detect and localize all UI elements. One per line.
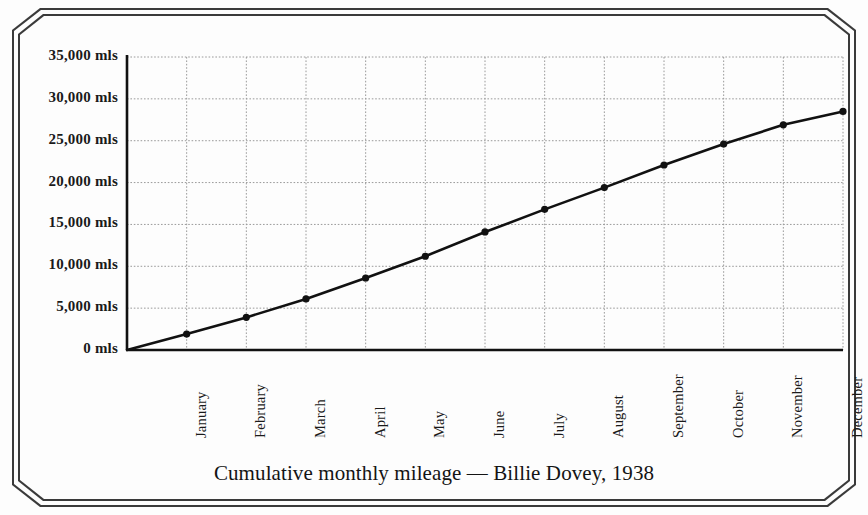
y-axis-tick-label: 35,000 mls: [49, 47, 119, 64]
grid-lines: [127, 57, 843, 350]
x-axis-tick-label: August: [610, 395, 627, 438]
y-axis-tick-label: 15,000 mls: [49, 214, 119, 231]
y-axis-tick-label: 0 mls: [83, 340, 118, 357]
x-axis-tick-label: May: [431, 411, 448, 438]
y-axis-tick-label: 20,000 mls: [49, 173, 119, 190]
x-axis-tick-label: June: [491, 411, 508, 438]
y-axis-tick-label: 5,000 mls: [56, 298, 118, 315]
x-axis-tick-label: November: [789, 375, 806, 438]
x-axis-tick-label: April: [372, 406, 389, 438]
x-axis-tick-label: March: [312, 399, 329, 438]
x-axis-tick-label: December: [849, 377, 866, 438]
x-axis-tick-label: January: [193, 392, 210, 439]
x-axis-tick-label: October: [730, 390, 747, 438]
line-chart: 0 mls5,000 mls10,000 mls15,000 mls20,000…: [0, 0, 868, 515]
x-axis-tick-label: September: [670, 374, 687, 438]
y-axis-tick-labels: 0 mls5,000 mls10,000 mls15,000 mls20,000…: [0, 0, 118, 515]
chart-caption: Cumulative monthly mileage — Billie Dove…: [0, 461, 868, 486]
chart-page: 0 mls5,000 mls10,000 mls15,000 mls20,000…: [0, 0, 868, 515]
x-axis-tick-label: July: [551, 413, 568, 438]
data-point-markers: [183, 108, 847, 338]
y-axis-tick-label: 10,000 mls: [49, 256, 119, 273]
y-axis-tick-label: 30,000 mls: [49, 89, 119, 106]
y-axis-tick-label: 25,000 mls: [49, 131, 119, 148]
x-axis-tick-label: February: [252, 384, 269, 438]
